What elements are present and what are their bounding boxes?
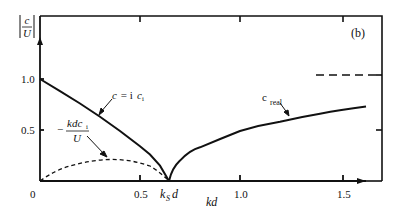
x-tick-0.5: 0.5 <box>134 188 148 200</box>
svg-text:kdc: kdc <box>67 117 82 129</box>
label-c-real: c real <box>262 91 283 107</box>
x-axis-label: kd <box>206 195 218 209</box>
svg-text:S: S <box>166 194 170 203</box>
svg-text:real: real <box>270 98 283 107</box>
svg-text:U: U <box>73 132 82 144</box>
svg-text:c: c <box>25 14 30 26</box>
x-tick-1.5: 1.5 <box>337 188 351 200</box>
svg-text:= i: = i <box>118 89 133 101</box>
x-tick-0: 0 <box>30 188 36 200</box>
plot-frame <box>40 16 382 181</box>
svg-text:c: c <box>112 89 117 101</box>
label-c-imag: c = i c i <box>112 89 144 103</box>
x-tick-1.0: 1.0 <box>234 188 248 200</box>
label-kdci: − kdc i U <box>57 117 89 144</box>
svg-text:i: i <box>142 95 144 103</box>
svg-text:U: U <box>23 27 32 39</box>
y-axis-arrow-icon <box>37 37 43 45</box>
curve-kdci-dashed <box>40 159 169 181</box>
y-tick-0.5: 0.5 <box>21 124 35 136</box>
x-axis <box>40 175 366 181</box>
svg-text:−: − <box>57 123 63 135</box>
svg-text:i: i <box>86 123 88 131</box>
y-tick-1.0: 1.0 <box>21 73 35 85</box>
ks-d-label: k S d <box>160 187 179 203</box>
panel-label: (b) <box>351 26 365 40</box>
svg-text:d: d <box>172 187 179 201</box>
dispersion-chart: c U 1.0 0.5 0 0.5 1.0 1.5 k S d kd (b) c… <box>0 0 401 211</box>
svg-text:c: c <box>262 91 267 103</box>
x-axis-arrow-icon <box>357 178 366 184</box>
curve-c-real <box>169 107 366 182</box>
y-axis-label: c U <box>20 14 34 39</box>
